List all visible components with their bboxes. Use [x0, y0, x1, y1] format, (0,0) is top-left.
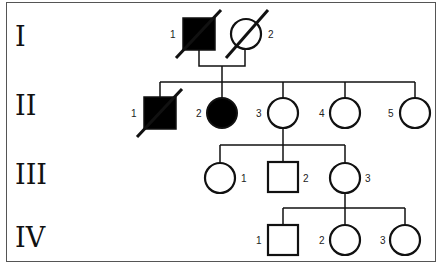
unaffected-male-square-icon [268, 162, 298, 192]
affected-female-circle-icon [207, 98, 237, 128]
individual-number: 4 [319, 108, 325, 119]
individual-number: 1 [241, 173, 247, 184]
individual-number: 3 [256, 108, 262, 119]
connector-lines [160, 49, 415, 225]
individual-number: 2 [319, 235, 325, 246]
unaffected-female-circle-icon [330, 163, 360, 193]
generation-label-IV: IV [15, 222, 46, 253]
individual-number: 2 [268, 29, 274, 40]
individual-number: 3 [380, 235, 386, 246]
individual-II-3: 3 [256, 98, 298, 128]
individual-II-5: 5 [388, 98, 430, 128]
individual-III-1: 1 [205, 163, 247, 193]
individual-III-3: 3 [330, 163, 371, 193]
unaffected-male-square-icon [268, 225, 298, 255]
individual-IV-2: 2 [319, 225, 360, 255]
unaffected-female-circle-icon [205, 163, 235, 193]
individual-IV-1: 1 [256, 225, 298, 255]
generation-label-II: II [15, 90, 36, 121]
individual-I-2: 2 [226, 10, 274, 58]
individual-II-4: 4 [319, 98, 360, 128]
generation-label-I: I [15, 21, 26, 52]
individual-II-2: 2 [196, 98, 237, 128]
unaffected-female-circle-icon [268, 98, 298, 128]
individual-number: 1 [170, 29, 176, 40]
unaffected-female-circle-icon [390, 225, 420, 255]
individual-II-1: 1 [131, 89, 182, 137]
individual-number: 2 [196, 108, 202, 119]
individual-number: 2 [303, 173, 309, 184]
individual-number: 1 [256, 235, 262, 246]
unaffected-female-circle-icon [400, 98, 430, 128]
pedigree-chart: I II III IV 1 2 [0, 0, 440, 268]
individual-I-1: 1 [170, 10, 221, 58]
individual-number: 1 [131, 108, 137, 119]
individual-number: 5 [388, 108, 394, 119]
individual-III-2: 2 [268, 162, 309, 192]
individual-IV-3: 3 [380, 225, 420, 255]
unaffected-female-circle-icon [330, 98, 360, 128]
individual-number: 3 [365, 173, 371, 184]
unaffected-female-circle-icon [330, 225, 360, 255]
generation-label-III: III [15, 159, 47, 190]
